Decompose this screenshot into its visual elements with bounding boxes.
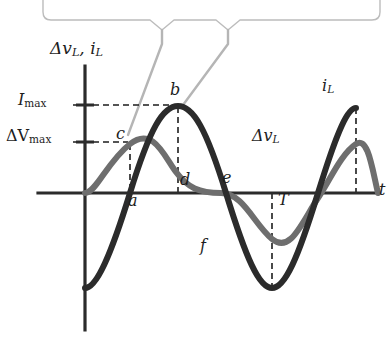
callout-box [43,0,380,30]
inductor-waveform-figure: ΔvL, iL t Imax ΔVmax iL ΔvL a b c d e f … [0,0,391,339]
point-label-b: b [170,82,180,98]
point-label-f: f [200,238,206,254]
point-label-c: c [116,126,125,142]
point-label-e: e [222,170,231,186]
point-label-period: T [278,192,289,208]
current-curve [85,106,356,288]
curve-label-current: iL [322,78,334,95]
x-axis-label: t [379,182,385,198]
curve-label-voltage: ΔvL [252,128,280,145]
tick-label-imax: Imax [18,92,47,109]
y-axis-label: ΔvL, iL [50,40,103,59]
tick-label-vmax: ΔVmax [6,128,51,145]
point-label-d: d [180,172,190,188]
point-label-a: a [128,193,138,209]
